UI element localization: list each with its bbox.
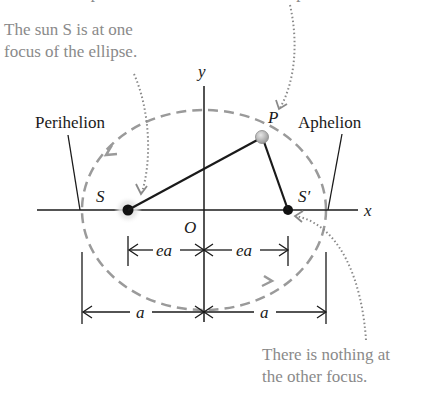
ea-right-label: ea [236, 241, 252, 260]
sun-note-line2: focus of the ellipse. [4, 42, 137, 61]
orbit-arrow-lower-right-icon [262, 276, 272, 286]
perihelion-label: Perihelion [35, 113, 105, 132]
perihelion-leader [68, 135, 80, 210]
planet-label: P [267, 108, 278, 127]
sun-pointer-dotted [134, 74, 148, 192]
sun-pointer-arrow-icon [136, 184, 147, 194]
aphelion-leader [328, 134, 342, 210]
kepler-ellipse-diagram: The planet P moves around the elliptical… [0, 0, 438, 405]
x-axis-label: x [363, 201, 372, 220]
planet-pointer-arrow-icon [276, 100, 287, 109]
sun-note-line1: The sun S is at one [4, 20, 133, 39]
planet-dot [256, 131, 269, 144]
y-axis-label: y [196, 62, 206, 81]
ea-left-label: ea [156, 241, 172, 260]
a-right-label: a [260, 303, 269, 322]
other-focus-note-line1: There is nothing at [262, 345, 390, 364]
aphelion-label: Aphelion [298, 113, 362, 132]
origin-label: O [184, 218, 196, 237]
focus-to-planet-line [263, 139, 288, 210]
other-focus-pointer-dotted [296, 216, 366, 340]
title-partial: The planet P moves around the elliptical… [60, 0, 375, 2]
sun-label: S [96, 187, 105, 206]
a-left-label: a [136, 303, 145, 322]
planet-pointer-dotted [280, 5, 295, 108]
orbit-arrow-upper-left-icon [106, 145, 117, 155]
other-focus-note-line2: the other focus. [262, 367, 367, 386]
other-focus-label: S′ [298, 187, 311, 206]
